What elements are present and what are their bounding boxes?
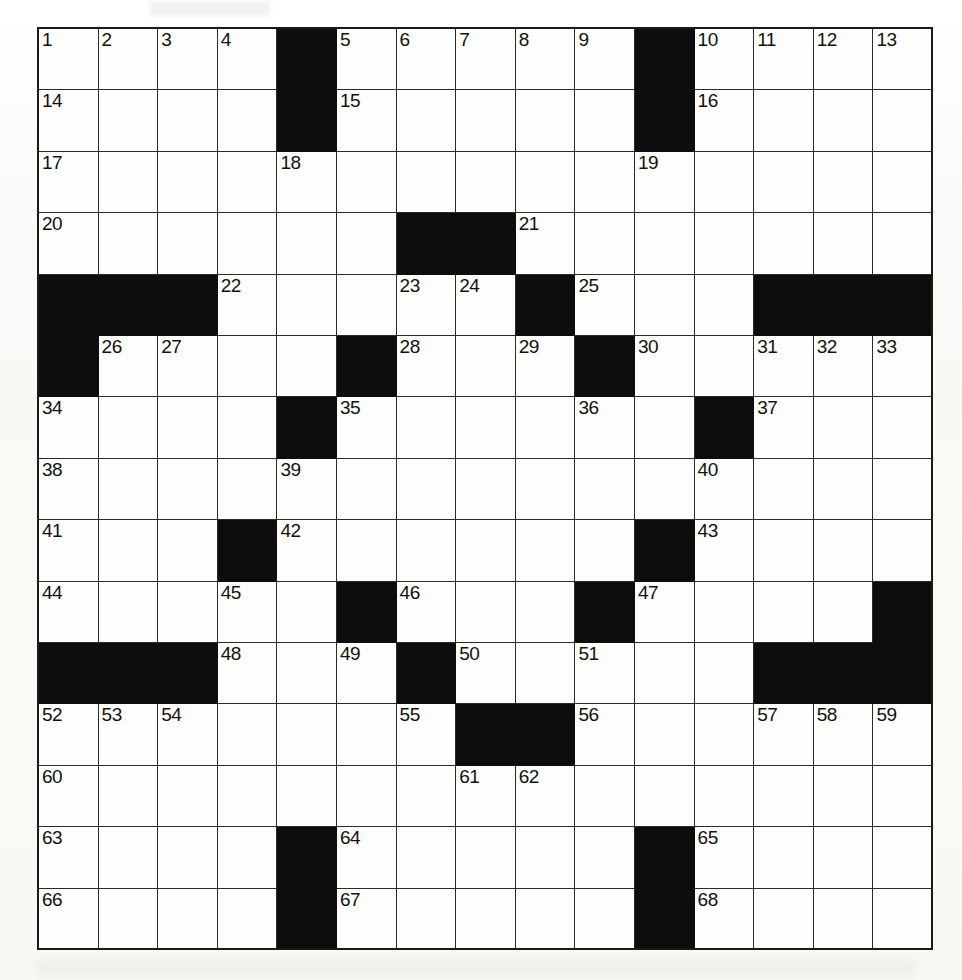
grid-cell[interactable] xyxy=(754,520,814,581)
grid-cell[interactable] xyxy=(873,520,933,581)
grid-cell[interactable] xyxy=(456,397,516,458)
grid-cell[interactable] xyxy=(873,766,933,827)
grid-cell[interactable] xyxy=(218,152,278,213)
grid-cell[interactable]: 3 xyxy=(158,29,218,90)
grid-cell[interactable] xyxy=(218,397,278,458)
grid-cell[interactable]: 63 xyxy=(39,827,99,888)
grid-cell[interactable]: 13 xyxy=(873,29,933,90)
grid-cell[interactable] xyxy=(218,827,278,888)
grid-cell[interactable]: 54 xyxy=(158,704,218,765)
grid-cell[interactable] xyxy=(397,889,457,950)
grid-cell[interactable] xyxy=(456,582,516,643)
grid-cell[interactable] xyxy=(158,582,218,643)
grid-cell[interactable] xyxy=(814,827,874,888)
grid-cell[interactable] xyxy=(516,827,576,888)
grid-cell[interactable] xyxy=(575,827,635,888)
grid-cell[interactable]: 44 xyxy=(39,582,99,643)
grid-cell[interactable] xyxy=(516,459,576,520)
grid-cell[interactable]: 60 xyxy=(39,766,99,827)
grid-cell[interactable] xyxy=(158,90,218,151)
grid-cell[interactable]: 1 xyxy=(39,29,99,90)
grid-cell[interactable] xyxy=(337,275,397,336)
grid-cell[interactable] xyxy=(754,213,814,274)
grid-cell[interactable]: 23 xyxy=(397,275,457,336)
grid-cell[interactable] xyxy=(456,520,516,581)
grid-cell[interactable] xyxy=(814,520,874,581)
grid-cell[interactable] xyxy=(754,459,814,520)
grid-cell[interactable] xyxy=(158,213,218,274)
grid-cell[interactable] xyxy=(99,520,159,581)
grid-cell[interactable] xyxy=(575,766,635,827)
grid-cell[interactable] xyxy=(397,90,457,151)
grid-cell[interactable]: 68 xyxy=(695,889,755,950)
grid-cell[interactable] xyxy=(635,643,695,704)
grid-cell[interactable]: 40 xyxy=(695,459,755,520)
grid-cell[interactable] xyxy=(218,459,278,520)
grid-cell[interactable] xyxy=(575,459,635,520)
grid-cell[interactable] xyxy=(277,275,337,336)
grid-cell[interactable]: 28 xyxy=(397,336,457,397)
grid-cell[interactable] xyxy=(754,152,814,213)
grid-cell[interactable] xyxy=(456,90,516,151)
grid-cell[interactable] xyxy=(277,643,337,704)
grid-cell[interactable] xyxy=(218,90,278,151)
grid-cell[interactable]: 37 xyxy=(754,397,814,458)
grid-cell[interactable]: 18 xyxy=(277,152,337,213)
grid-cell[interactable] xyxy=(277,213,337,274)
grid-cell[interactable]: 21 xyxy=(516,213,576,274)
grid-cell[interactable] xyxy=(218,704,278,765)
grid-cell[interactable] xyxy=(814,90,874,151)
grid-cell[interactable] xyxy=(456,459,516,520)
grid-cell[interactable]: 22 xyxy=(218,275,278,336)
grid-cell[interactable]: 10 xyxy=(695,29,755,90)
grid-cell[interactable] xyxy=(695,704,755,765)
grid-cell[interactable]: 39 xyxy=(277,459,337,520)
grid-cell[interactable]: 4 xyxy=(218,29,278,90)
grid-cell[interactable] xyxy=(158,397,218,458)
grid-cell[interactable]: 61 xyxy=(456,766,516,827)
grid-cell[interactable] xyxy=(516,90,576,151)
grid-cell[interactable] xyxy=(456,889,516,950)
grid-cell[interactable] xyxy=(99,889,159,950)
grid-cell[interactable] xyxy=(99,459,159,520)
grid-cell[interactable]: 67 xyxy=(337,889,397,950)
grid-cell[interactable] xyxy=(277,766,337,827)
grid-cell[interactable] xyxy=(158,152,218,213)
grid-cell[interactable]: 24 xyxy=(456,275,516,336)
grid-cell[interactable] xyxy=(635,275,695,336)
grid-cell[interactable] xyxy=(337,459,397,520)
grid-cell[interactable] xyxy=(635,704,695,765)
grid-cell[interactable] xyxy=(635,766,695,827)
grid-cell[interactable] xyxy=(575,520,635,581)
grid-cell[interactable] xyxy=(397,459,457,520)
grid-cell[interactable]: 19 xyxy=(635,152,695,213)
grid-cell[interactable] xyxy=(575,213,635,274)
grid-cell[interactable] xyxy=(218,336,278,397)
grid-cell[interactable] xyxy=(695,275,755,336)
grid-cell[interactable] xyxy=(397,397,457,458)
grid-cell[interactable]: 45 xyxy=(218,582,278,643)
grid-cell[interactable] xyxy=(99,766,159,827)
grid-cell[interactable] xyxy=(575,90,635,151)
grid-cell[interactable] xyxy=(99,827,159,888)
grid-cell[interactable] xyxy=(516,643,576,704)
grid-cell[interactable] xyxy=(873,459,933,520)
grid-cell[interactable] xyxy=(337,152,397,213)
grid-cell[interactable]: 42 xyxy=(277,520,337,581)
grid-cell[interactable] xyxy=(873,90,933,151)
grid-cell[interactable]: 50 xyxy=(456,643,516,704)
grid-cell[interactable] xyxy=(575,152,635,213)
grid-cell[interactable] xyxy=(873,213,933,274)
grid-cell[interactable]: 36 xyxy=(575,397,635,458)
grid-cell[interactable] xyxy=(814,889,874,950)
grid-cell[interactable] xyxy=(99,90,159,151)
grid-cell[interactable]: 12 xyxy=(814,29,874,90)
grid-cell[interactable] xyxy=(397,520,457,581)
grid-cell[interactable]: 26 xyxy=(99,336,159,397)
grid-cell[interactable]: 32 xyxy=(814,336,874,397)
grid-cell[interactable] xyxy=(158,520,218,581)
grid-cell[interactable]: 41 xyxy=(39,520,99,581)
grid-cell[interactable]: 30 xyxy=(635,336,695,397)
grid-cell[interactable]: 15 xyxy=(337,90,397,151)
grid-cell[interactable] xyxy=(158,766,218,827)
